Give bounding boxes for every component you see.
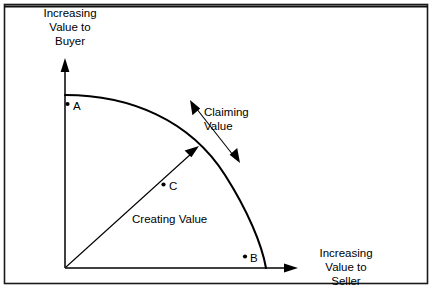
claiming-value-label-line2: Value — [204, 120, 233, 132]
claiming-value-label: ClaimingValue — [204, 105, 280, 133]
figure-frame: IncreasingValue toBuyer IncreasingValue … — [0, 0, 432, 294]
x-axis-caption-text: Increasing — [319, 247, 372, 259]
point-a-label: A — [73, 100, 81, 112]
point-b-label: B — [250, 252, 258, 264]
y-axis-caption-text: Increasing — [43, 7, 96, 19]
creating-value-label: Creating Value — [132, 212, 207, 226]
y-axis-caption: IncreasingValue toBuyer — [22, 6, 118, 48]
claiming-value-label-line1: Claiming — [204, 106, 249, 118]
y-axis-caption-text-line3: Buyer — [55, 35, 85, 47]
point-a-marker — [65, 102, 69, 106]
point-b-marker — [243, 254, 247, 258]
y-axis-caption-text-line2: Value to — [49, 21, 90, 33]
point-c-marker — [161, 182, 165, 186]
x-axis-caption: IncreasingValue toSeller — [303, 246, 389, 288]
x-axis-caption-text-line2: Value to — [325, 261, 366, 273]
point-c-label: C — [169, 180, 177, 192]
x-axis-caption-text-line3: Seller — [331, 275, 360, 287]
